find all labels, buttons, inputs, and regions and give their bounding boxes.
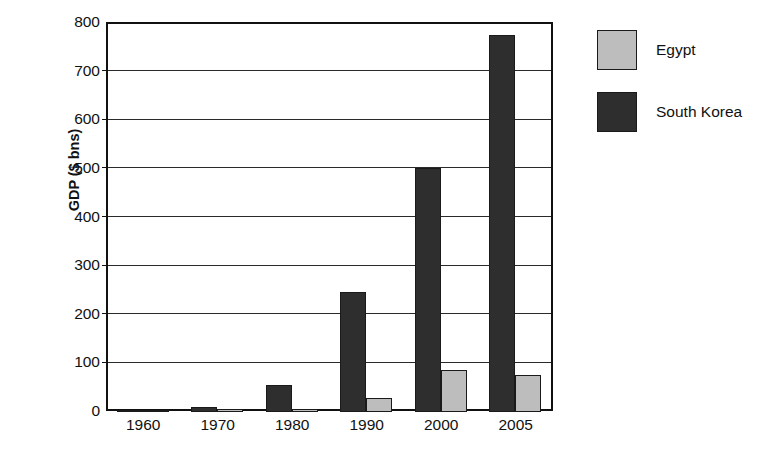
bar-south-korea-1990 xyxy=(340,292,366,411)
y-axis-tick-label: 0 xyxy=(44,403,100,419)
bar-egypt-1960 xyxy=(143,410,169,412)
legend-label: Egypt xyxy=(656,41,696,59)
legend-item-egypt: Egypt xyxy=(597,30,757,70)
y-axis-tick-label: 500 xyxy=(44,160,100,176)
legend-item-south-korea: South Korea xyxy=(597,92,757,132)
bar-egypt-2000 xyxy=(441,370,467,411)
x-axis-tick-label: 1960 xyxy=(103,416,183,434)
chart-legend: EgyptSouth Korea xyxy=(597,30,757,154)
bars-layer xyxy=(108,24,551,409)
legend-swatch-icon xyxy=(597,92,637,132)
legend-label: South Korea xyxy=(656,103,742,121)
x-axis-tick-label: 2005 xyxy=(476,416,556,434)
bar-egypt-1970 xyxy=(217,409,243,412)
bar-chart: GDP ($ bns) 8007006005004003002001000 19… xyxy=(0,0,762,466)
x-axis-tick-label: 1980 xyxy=(252,416,332,434)
bar-south-korea-1980 xyxy=(266,385,292,411)
bar-egypt-1980 xyxy=(292,409,318,411)
y-axis-tick-label: 300 xyxy=(44,257,100,273)
bar-egypt-1990 xyxy=(366,398,392,411)
plot-area xyxy=(106,22,553,411)
x-axis-tick-label: 2000 xyxy=(401,416,481,434)
bar-south-korea-2005 xyxy=(489,35,515,412)
x-axis-tick-label: 1990 xyxy=(327,416,407,434)
bar-south-korea-2000 xyxy=(415,168,441,411)
x-axis-tick-labels: 196019701980199020002005 xyxy=(106,416,553,446)
y-axis-tick-label: 400 xyxy=(44,209,100,225)
y-axis-tick-label: 800 xyxy=(44,14,100,30)
bar-egypt-2005 xyxy=(515,375,541,411)
legend-swatch-icon xyxy=(597,30,637,70)
y-axis-tick-labels: 8007006005004003002001000 xyxy=(38,0,100,466)
y-axis-tick-label: 700 xyxy=(44,63,100,79)
y-axis-tick-label: 100 xyxy=(44,354,100,370)
bar-south-korea-1960 xyxy=(117,410,143,412)
bar-south-korea-1970 xyxy=(191,407,217,411)
y-axis-tick-label: 200 xyxy=(44,306,100,322)
y-axis-tick-label: 600 xyxy=(44,111,100,127)
x-axis-tick-label: 1970 xyxy=(178,416,258,434)
